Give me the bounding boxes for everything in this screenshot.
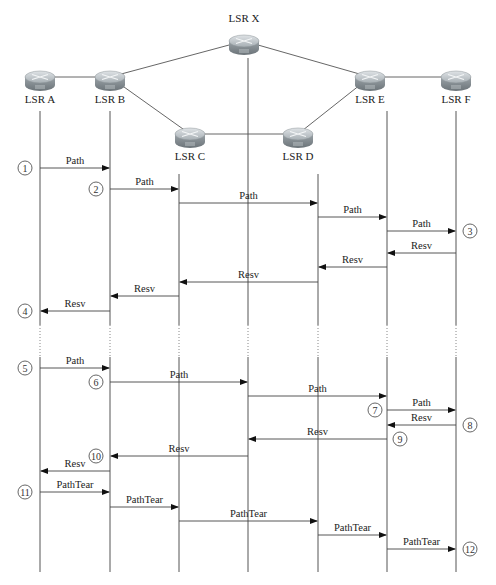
step-marker-2: 2 — [89, 182, 103, 196]
message-label: Path — [343, 204, 362, 215]
step-marker-6: 6 — [89, 375, 103, 389]
router-label: LSR A — [25, 93, 55, 105]
message-label: Path — [412, 397, 431, 408]
message-path: Path — [248, 383, 386, 396]
step-number: 10 — [91, 451, 101, 462]
router-label: LSR E — [355, 93, 385, 105]
message-label: Resv — [307, 426, 329, 437]
step-number: 11 — [20, 487, 30, 498]
message-label: Resv — [238, 269, 260, 280]
step-marker-11: 11 — [18, 485, 32, 499]
message-pathtear: PathTear — [387, 536, 455, 549]
step-number: 6 — [94, 377, 99, 388]
message-pathtear: PathTear — [40, 479, 109, 492]
message-label: Path — [135, 176, 154, 187]
step-marker-7: 7 — [368, 403, 382, 417]
message-label: Resv — [411, 412, 433, 423]
message-path: Path — [318, 204, 386, 217]
router-icon — [229, 35, 259, 55]
router-d: LSR D — [283, 128, 314, 162]
router-f: LSR F — [441, 71, 471, 105]
router-icon — [441, 71, 471, 91]
message-label: Path — [66, 355, 85, 366]
router-icon — [95, 71, 125, 91]
message-label: Path — [66, 155, 85, 166]
message-resv: Resv — [180, 269, 318, 282]
router-icon — [175, 128, 205, 148]
router-label: LSR X — [229, 12, 260, 24]
step-marker-10: 10 — [89, 449, 103, 463]
message-path: Path — [387, 397, 455, 410]
router-c: LSR C — [175, 128, 205, 162]
message-path: Path — [387, 218, 455, 231]
step-marker-1: 1 — [18, 161, 32, 175]
link-x-e — [244, 41, 370, 77]
router-b: LSR B — [95, 71, 125, 105]
message-resv: Resv — [41, 298, 110, 311]
link-b-x — [110, 41, 244, 77]
message-path: Path — [110, 176, 178, 189]
message-label: Resv — [65, 458, 87, 469]
message-label: PathTear — [230, 508, 268, 519]
message-label: Resv — [169, 443, 191, 454]
message-resv: Resv — [111, 283, 179, 296]
message-label: Path — [170, 369, 189, 380]
router-label: LSR F — [441, 93, 470, 105]
router-icon — [355, 71, 385, 91]
message-label: Resv — [134, 283, 156, 294]
message-label: Path — [412, 218, 431, 229]
step-number: 12 — [465, 544, 475, 555]
router-label: LSR D — [283, 150, 314, 162]
message-label: PathTear — [403, 536, 441, 547]
message-label: Path — [239, 190, 258, 201]
message-pathtear: PathTear — [110, 494, 178, 507]
message-label: PathTear — [126, 494, 164, 505]
message-path: Path — [40, 155, 109, 168]
step-marker-12: 12 — [463, 542, 477, 556]
step-marker-8: 8 — [463, 418, 477, 432]
step-number: 4 — [23, 306, 28, 317]
message-label: Path — [308, 383, 327, 394]
router-label: LSR C — [175, 150, 205, 162]
lifelines — [40, 58, 456, 572]
router-icon — [25, 71, 55, 91]
step-marker-9: 9 — [393, 432, 407, 446]
message-label: PathTear — [56, 479, 94, 490]
step-number: 9 — [398, 434, 403, 445]
message-resv: Resv — [388, 240, 456, 253]
rsvp-te-sequence-diagram: LSR ALSR BLSR CLSR XLSR DLSR ELSR F Path… — [0, 0, 496, 585]
message-resv: Resv — [319, 254, 387, 267]
step-marker-4: 4 — [18, 304, 32, 318]
step-marker-3: 3 — [463, 224, 477, 238]
step-marker-5: 5 — [18, 361, 32, 375]
router-icon — [283, 128, 313, 148]
step-number: 3 — [468, 226, 473, 237]
message-pathtear: PathTear — [318, 522, 386, 535]
step-number: 7 — [373, 405, 378, 416]
message-resv: Resv — [388, 412, 456, 425]
message-label: Resv — [342, 254, 364, 265]
router-label: LSR B — [95, 93, 125, 105]
router-x: LSR X — [229, 12, 260, 55]
step-number: 5 — [23, 363, 28, 374]
step-number: 8 — [468, 420, 473, 431]
message-path: Path — [40, 355, 109, 368]
message-label: Resv — [65, 298, 87, 309]
step-number: 2 — [94, 184, 99, 195]
step-number: 1 — [23, 163, 28, 174]
message-label: PathTear — [334, 522, 372, 533]
router-e: LSR E — [355, 71, 385, 105]
message-label: Resv — [411, 240, 433, 251]
router-a: LSR A — [25, 71, 55, 105]
